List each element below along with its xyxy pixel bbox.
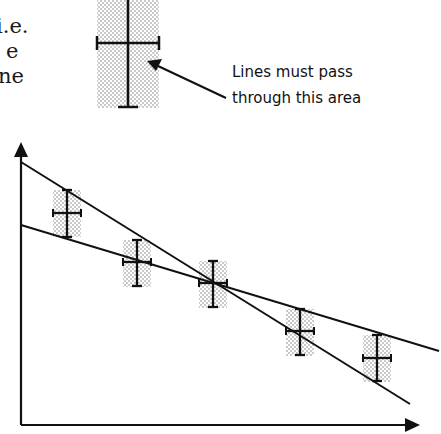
example-error-box [97, 0, 159, 108]
shallowest-fit-line [21, 225, 439, 351]
data-point [286, 309, 314, 356]
y-axis-arrow-icon [14, 142, 28, 157]
data-point [363, 335, 391, 382]
data-point [199, 261, 227, 308]
diagram-canvas [0, 0, 441, 434]
x-axis-arrow-icon [405, 418, 420, 432]
